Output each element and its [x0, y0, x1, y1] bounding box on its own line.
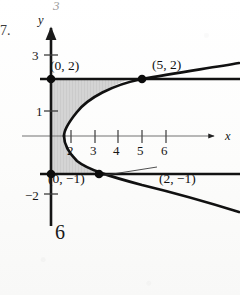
shaded-region: [51, 79, 130, 174]
x-tick-label-6: 6: [161, 144, 168, 157]
point-label-2-minus-1: (2, −1): [159, 172, 196, 186]
y-tick-label-minus-2: −2: [25, 189, 39, 202]
parabola-upper-branch: [64, 63, 239, 136]
point-0-2: [47, 75, 56, 84]
page-corner-digit: 3: [53, 0, 60, 12]
coordinate-plot: [0, 0, 240, 295]
point-2-minus-1: [95, 170, 104, 179]
y-tick-label-1: 1: [36, 105, 43, 118]
y-tick-label-3: 3: [32, 49, 39, 62]
x-axis-label: x: [225, 130, 231, 143]
margin-exercise-mark: 7.: [0, 24, 11, 38]
x-tick-label-3: 3: [90, 144, 97, 157]
figure-container: y x 3 1 −2 2 3 4 5 6 (0, 2) (5, 2) (0, −…: [0, 0, 240, 295]
x-tick-label-2: 2: [67, 144, 74, 157]
figure-number: 6: [55, 222, 65, 242]
x-tick-label-5: 5: [137, 144, 144, 157]
y-axis-label: y: [38, 14, 44, 27]
point-label-0-2: (0, 2): [50, 59, 79, 73]
point-label-0-minus-1: (0, −1): [48, 172, 85, 186]
point-5-2: [138, 75, 147, 84]
point-label-5-2: (5, 2): [152, 58, 181, 72]
x-tick-label-4: 4: [113, 144, 120, 157]
